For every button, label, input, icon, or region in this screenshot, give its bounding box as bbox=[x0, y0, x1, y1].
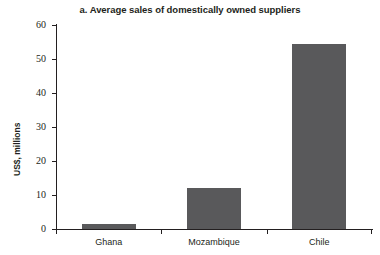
y-tick: 10 bbox=[52, 195, 56, 196]
plot-area: 0102030405060 GhanaMozambiqueChile bbox=[56, 25, 372, 229]
y-tick: 50 bbox=[52, 59, 56, 60]
y-axis-label-text: US$, millions bbox=[13, 123, 22, 176]
chart-title: a. Average sales of domestically owned s… bbox=[0, 4, 380, 15]
y-axis-label: US$, millions bbox=[2, 90, 16, 176]
y-tick: 40 bbox=[52, 93, 56, 94]
x-category-label: Chile bbox=[309, 237, 330, 247]
y-tick: 60 bbox=[52, 25, 56, 26]
y-tick-label: 50 bbox=[36, 53, 46, 64]
x-tick bbox=[371, 229, 372, 234]
y-tick-label: 60 bbox=[36, 19, 46, 30]
bar bbox=[82, 224, 136, 229]
bar-chart: a. Average sales of domestically owned s… bbox=[0, 0, 380, 255]
x-category-label: Ghana bbox=[95, 237, 122, 247]
y-tick: 30 bbox=[52, 127, 56, 128]
x-tick bbox=[161, 229, 162, 234]
y-tick-label: 0 bbox=[41, 223, 46, 234]
y-tick-label: 10 bbox=[36, 189, 46, 200]
y-tick-label: 20 bbox=[36, 155, 46, 166]
x-axis-line bbox=[56, 229, 373, 230]
y-tick: 20 bbox=[52, 161, 56, 162]
x-category-label: Mozambique bbox=[188, 237, 240, 247]
y-tick-label: 30 bbox=[36, 121, 46, 132]
y-tick-label: 40 bbox=[36, 87, 46, 98]
x-tick bbox=[56, 229, 57, 234]
bar bbox=[292, 44, 346, 229]
bar bbox=[187, 188, 241, 229]
x-tick bbox=[267, 229, 268, 234]
